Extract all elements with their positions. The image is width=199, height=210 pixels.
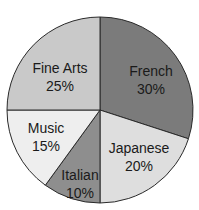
label-japanese: Japanese <box>109 140 170 156</box>
pct-fine-arts: 25% <box>46 78 74 94</box>
label-music: Music <box>28 120 65 136</box>
pct-japanese: 20% <box>125 158 153 174</box>
label-italian: Italian <box>61 167 98 183</box>
pct-italian: 10% <box>66 185 94 201</box>
pct-french: 30% <box>137 81 165 97</box>
pie-chart: French 30% Japanese 20% Italian 10% Musi… <box>0 0 199 210</box>
label-french: French <box>129 63 173 79</box>
pct-music: 15% <box>32 138 60 154</box>
label-fine-arts: Fine Arts <box>32 60 87 76</box>
